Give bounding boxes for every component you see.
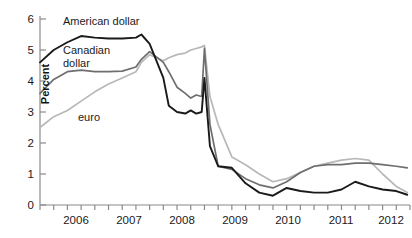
series-label-american-dollar: American dollar [63, 15, 139, 28]
x-tick-2010: 2010 [265, 215, 311, 227]
x-axis-tick-labels: 2006 2007 2008 2009 2010 2011 2012 [0, 0, 412, 238]
x-tick-2011: 2011 [318, 215, 364, 227]
series-label-canadian-dollar: Canadian dollar [63, 44, 110, 69]
x-tick-2008: 2008 [159, 215, 205, 227]
line-chart-figure: Percent 6 5 4 3 2 1 0 [0, 0, 412, 238]
x-tick-2007: 2007 [106, 215, 152, 227]
x-tick-2006: 2006 [53, 215, 99, 227]
series-label-euro: euro [78, 111, 100, 124]
x-tick-2012: 2012 [368, 215, 412, 227]
x-tick-2009: 2009 [212, 215, 258, 227]
